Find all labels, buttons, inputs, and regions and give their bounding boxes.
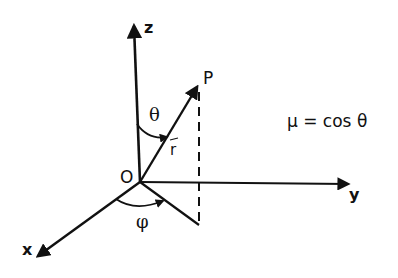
z-axis: [134, 26, 140, 182]
y-axis-label: y: [349, 185, 360, 204]
x-axis: [38, 182, 140, 256]
z-axis-label: z: [144, 18, 153, 37]
theta-arc: [137, 124, 167, 137]
spherical-coordinates-diagram: z y x O P r θ φ μ = cos θ: [0, 0, 398, 278]
origin-label: O: [120, 167, 133, 187]
point-p-label: P: [203, 68, 213, 88]
equation-text: μ = cos θ: [287, 111, 367, 131]
phi-label: φ: [136, 211, 149, 232]
theta-label: θ: [149, 104, 160, 125]
vector-r-label: r: [170, 141, 177, 159]
y-axis: [140, 182, 348, 184]
vector-r-overarrow: [170, 138, 178, 140]
x-axis-label: x: [22, 240, 33, 259]
projection-line: [140, 182, 199, 225]
phi-arc: [116, 199, 163, 206]
